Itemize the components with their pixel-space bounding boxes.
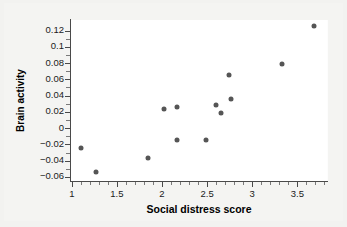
y-axis-minor-tick [66, 39, 70, 40]
x-axis-minor-tick [234, 182, 235, 185]
scatter-point [161, 107, 166, 112]
figure-container: 0.120.10.080.060.040.020−0.02−0.04−0.061… [0, 0, 347, 227]
plot-area [70, 20, 327, 181]
y-axis-tick [65, 96, 70, 97]
y-axis-tick [65, 177, 70, 178]
x-axis-minor-tick [126, 182, 127, 185]
x-axis-minor-tick [153, 182, 154, 185]
y-axis-tick-label: 0.06 [46, 74, 65, 84]
x-axis-minor-tick [189, 182, 190, 185]
y-axis-tick [65, 112, 70, 113]
x-axis-minor-tick [261, 182, 262, 185]
x-axis-tick-label: 2 [159, 188, 164, 199]
y-axis-title: Brain activity [14, 20, 28, 181]
y-axis-line [70, 19, 71, 182]
x-axis-minor-tick [135, 182, 136, 185]
scatter-point [146, 156, 151, 161]
y-axis-tick-label: 0.08 [46, 58, 65, 68]
x-axis-minor-tick [171, 182, 172, 185]
y-axis-tick-label: −0.04 [40, 155, 64, 165]
y-axis-minor-tick [66, 136, 70, 137]
scatter-point [214, 102, 219, 107]
x-axis-minor-tick [198, 182, 199, 185]
x-axis-minor-tick [315, 182, 316, 185]
scatter-point [78, 145, 83, 150]
x-axis-tick [117, 182, 118, 187]
x-axis-tick-label: 1.5 [110, 188, 123, 199]
x-axis-tick-label: 1 [69, 188, 74, 199]
x-axis-minor-tick [99, 182, 100, 185]
scatter-point [94, 170, 99, 175]
y-axis-tick [65, 161, 70, 162]
x-axis-tick-label: 3 [250, 188, 255, 199]
y-axis-tick [65, 144, 70, 145]
x-axis-minor-tick [225, 182, 226, 185]
y-axis-tick [65, 63, 70, 64]
x-axis-minor-tick [180, 182, 181, 185]
scatter-point [175, 105, 180, 110]
y-axis-minor-tick [66, 120, 70, 121]
scatter-point [311, 23, 316, 28]
y-axis-minor-tick [66, 87, 70, 88]
x-axis-tick [72, 182, 73, 187]
x-axis-title: Social distress score [70, 203, 328, 215]
scatter-point [226, 73, 231, 78]
y-axis-tick-label: 0.1 [51, 41, 64, 51]
x-axis-minor-tick [243, 182, 244, 185]
x-axis-tick [252, 182, 253, 187]
y-axis-tick [65, 128, 70, 129]
x-axis-minor-tick [108, 182, 109, 185]
x-axis-tick [162, 182, 163, 187]
y-axis-tick [65, 47, 70, 48]
x-axis-minor-tick [144, 182, 145, 185]
x-axis-minor-tick [279, 182, 280, 185]
scatter-point [204, 137, 209, 142]
y-axis-tick-label: 0 [59, 123, 64, 133]
y-axis-tick-label: 0.12 [46, 25, 65, 35]
x-axis-minor-tick [81, 182, 82, 185]
y-axis-minor-tick [66, 104, 70, 105]
x-axis-minor-tick [324, 182, 325, 185]
x-axis-minor-tick [270, 182, 271, 185]
y-axis-tick-label: 0.04 [46, 90, 65, 100]
x-axis-tick-label: 2.5 [201, 188, 214, 199]
y-axis-tick [65, 79, 70, 80]
y-axis-minor-tick [66, 169, 70, 170]
x-axis-minor-tick [90, 182, 91, 185]
y-axis-minor-tick [66, 71, 70, 72]
y-axis-minor-tick [66, 153, 70, 154]
scatter-point [279, 61, 284, 66]
x-axis-minor-tick [288, 182, 289, 185]
x-axis-minor-tick [306, 182, 307, 185]
x-axis-tick-label: 3.5 [291, 188, 304, 199]
y-axis-tick-label: 0.02 [46, 106, 65, 116]
x-axis-tick [297, 182, 298, 187]
x-axis-minor-tick [216, 182, 217, 185]
y-axis-minor-tick [66, 55, 70, 56]
x-axis-tick [207, 182, 208, 187]
y-axis-tick [65, 31, 70, 32]
y-axis-tick-label: −0.02 [40, 139, 64, 149]
scatter-point [218, 110, 223, 115]
scatter-point [229, 96, 234, 101]
scatter-point [175, 137, 180, 142]
y-axis-tick-label: −0.06 [40, 171, 64, 181]
